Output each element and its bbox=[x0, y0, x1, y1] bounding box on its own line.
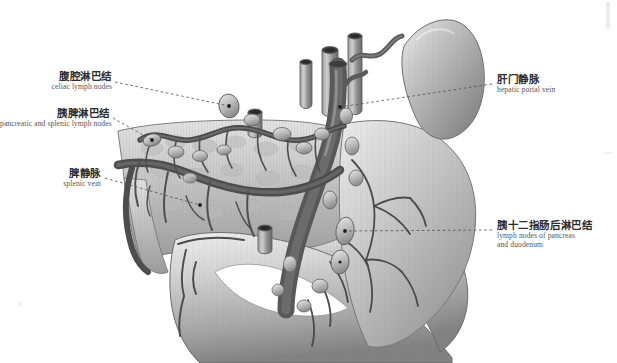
label-splenic-vein-cn: 脾静脉 bbox=[0, 167, 101, 179]
label-pancreatic-splenic-lymph-nodes-en: pancreatic and splenic lymph nodes bbox=[0, 120, 110, 129]
spleen bbox=[402, 20, 484, 139]
scan-artifact-mid bbox=[604, 152, 613, 154]
label-pancreatic-splenic-lymph-nodes: 胰脾淋巴结 pancreatic and splenic lymph nodes bbox=[0, 107, 110, 129]
label-lymph-nodes-pancreas-duodenum: 胰十二指肠后淋巴结 lymph nodes of pancreas and du… bbox=[497, 219, 592, 250]
label-splenic-vein-en: splenic vein bbox=[0, 180, 101, 189]
anatomical-figure: 腹腔淋巴结 celiac lymph nodes 胰脾淋巴结 pancreati… bbox=[0, 0, 617, 363]
leader-celiac-lymph-nodes bbox=[115, 82, 229, 106]
label-hepatic-portal-vein-cn: 肝门静脉 bbox=[497, 73, 555, 85]
label-hepatic-portal-vein-en: hepatic portal vein bbox=[497, 86, 555, 95]
label-hepatic-portal-vein: 肝门静脉 hepatic portal vein bbox=[497, 73, 555, 95]
label-celiac-lymph-nodes: 腹腔淋巴结 celiac lymph nodes bbox=[0, 70, 112, 92]
scan-artifact-top bbox=[606, 2, 610, 28]
label-splenic-vein: 脾静脉 splenic vein bbox=[0, 167, 101, 189]
label-lymph-nodes-pancreas-duodenum-cn: 胰十二指肠后淋巴结 bbox=[497, 219, 592, 231]
label-celiac-lymph-nodes-en: celiac lymph nodes bbox=[0, 83, 112, 92]
label-lymph-nodes-pancreas-duodenum-en-line2: and duodenum bbox=[497, 241, 592, 250]
label-pancreatic-splenic-lymph-nodes-cn: 胰脾淋巴结 bbox=[0, 107, 110, 119]
label-celiac-lymph-nodes-cn: 腹腔淋巴结 bbox=[0, 70, 112, 82]
scan-artifact-left bbox=[18, 302, 21, 306]
